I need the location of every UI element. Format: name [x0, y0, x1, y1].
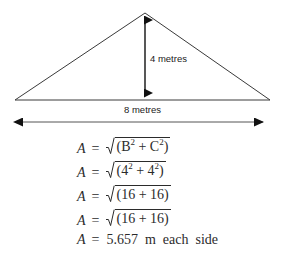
radical-group: (16 + 16)	[106, 209, 170, 226]
sqrt-icon	[106, 209, 115, 226]
radicand: (B2 + C2)	[115, 137, 170, 154]
height-label: 4 metres	[150, 54, 187, 64]
equation-variable: A	[77, 232, 86, 248]
sqrt-icon	[106, 161, 115, 178]
equals-sign: =	[92, 165, 100, 181]
equals-sign: =	[92, 232, 100, 248]
equation-variable: A	[77, 189, 86, 205]
equation-row: A = (42 + 42)	[0, 160, 285, 184]
equation-variable: A	[77, 141, 86, 157]
equation-list: A = (B2 + C2) A = (42 + 42)	[0, 136, 285, 256]
sqrt-icon	[106, 185, 115, 202]
equals-sign: =	[92, 141, 100, 157]
diagram-page: 4 metres 8 metres A = (B2 + C2) A =	[0, 0, 285, 264]
base-label: 8 metres	[0, 105, 285, 115]
sqrt-icon	[106, 137, 115, 154]
equation-variable: A	[77, 165, 86, 181]
equation-row: A = (16 + 16)	[0, 208, 285, 232]
radicand: (16 + 16)	[115, 185, 170, 202]
equation-variable: A	[77, 213, 86, 229]
radical-group: (B2 + C2)	[106, 137, 170, 154]
equation-row: A = (B2 + C2)	[0, 136, 285, 160]
equation-body: (16 + 16)	[106, 184, 170, 201]
equation-body: (42 + 42)	[106, 160, 165, 177]
equation-body: (B2 + C2)	[106, 136, 170, 153]
triangle-outline	[15, 13, 270, 100]
equation-row-result: A = 5.657 m each side	[0, 232, 285, 256]
radicand: (42 + 42)	[115, 161, 165, 178]
radical-group: (16 + 16)	[106, 185, 170, 202]
radicand: (16 + 16)	[115, 209, 170, 226]
triangle-figure: 4 metres 8 metres	[0, 0, 285, 132]
equals-sign: =	[92, 213, 100, 229]
equation-body: (16 + 16)	[106, 208, 170, 225]
equation-row: A = (16 + 16)	[0, 184, 285, 208]
radical-group: (42 + 42)	[106, 161, 165, 178]
equation-result: 5.657 m each side	[106, 232, 218, 248]
equals-sign: =	[92, 189, 100, 205]
